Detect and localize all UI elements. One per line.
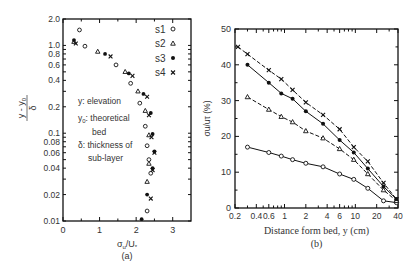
svg-text:y - y0: y - y0 [16, 97, 27, 118]
series-line [248, 97, 397, 201]
open-triangle-marker [143, 108, 147, 112]
x-tick-label: 1 [97, 225, 102, 235]
filled-circle-marker [127, 72, 131, 76]
x-tick-label: 6 [337, 211, 342, 221]
open-triangle-marker [351, 157, 356, 161]
open-triangle-marker [321, 136, 326, 140]
svg-text:y: elevation: y: elevation [78, 96, 121, 106]
filled-circle-marker [245, 63, 249, 67]
x-tick-label: 20 [372, 211, 382, 221]
x-tick-label: 0 [60, 225, 65, 235]
x-tick-label: 10 [351, 211, 361, 221]
svg-text:δ: δ [28, 105, 38, 110]
y-tick-label: 0.2 [48, 102, 60, 112]
series-line [248, 147, 397, 203]
cross-marker [382, 181, 386, 185]
open-triangle-marker [145, 179, 149, 183]
filled-circle-marker [338, 138, 342, 142]
open-circle-marker [352, 177, 356, 181]
svg-text:δ: thickness of: δ: thickness of [78, 140, 133, 150]
open-circle-marker [145, 144, 149, 148]
series-s1 [245, 145, 398, 204]
cross-marker [338, 127, 342, 131]
y-tick-label: 0.6 [48, 60, 60, 70]
y-tick-label: 0 [226, 203, 231, 213]
open-triangle-marker [136, 89, 140, 93]
legend-label: s2 [155, 38, 166, 49]
cross-marker [150, 135, 154, 139]
cross-marker [366, 159, 370, 163]
open-circle-marker [145, 209, 149, 213]
filled-circle-marker [171, 56, 175, 60]
figure: 01232.01.00.80.60.40.20.10.080.060.040.0… [0, 0, 417, 275]
svg-text:sub-layer: sub-layer [88, 153, 123, 163]
filled-circle-marker [145, 193, 149, 197]
open-circle-marker [291, 158, 295, 162]
svg-text:y0: theoretical: y0: theoretical [78, 113, 130, 124]
cross-marker [291, 88, 295, 92]
open-triangle-marker [279, 114, 284, 118]
x-axis-label: σu/U* [117, 239, 138, 250]
filled-circle-marker [366, 167, 370, 171]
filled-circle-marker [267, 81, 271, 85]
open-triangle-marker [290, 120, 295, 124]
open-triangle-marker [337, 146, 342, 150]
filled-circle-marker [279, 91, 283, 95]
y-tick-label: 40 [221, 60, 231, 70]
filled-circle-marker [140, 217, 144, 221]
filled-circle-marker [382, 185, 386, 189]
open-circle-marker [129, 81, 133, 85]
x-tick-label: 3 [170, 225, 175, 235]
open-triangle-marker [96, 49, 100, 53]
legend-label: s4 [155, 67, 166, 78]
legend-label: s1 [155, 24, 166, 35]
open-circle-marker [245, 145, 249, 149]
open-circle-marker [267, 151, 271, 155]
cross-marker [321, 113, 325, 117]
cross-marker [267, 68, 271, 72]
cross-marker [279, 77, 283, 81]
cross-marker [149, 197, 153, 201]
x-tick-label: 2 [134, 225, 139, 235]
panel-caption: (a) [122, 251, 133, 261]
series-line [248, 65, 397, 199]
y-tick-label: 0.08 [43, 137, 60, 147]
open-triangle-marker [245, 95, 250, 99]
filled-circle-marker [142, 92, 146, 96]
chart-panel-b: 0.20.40.6124610204001020304050σu/uτ (%)D… [202, 24, 403, 250]
chart-panel-a: 01232.01.00.80.60.40.20.10.080.060.040.0… [16, 14, 191, 261]
open-triangle-marker [304, 129, 309, 133]
y-axis-label: y - y0δ [16, 95, 38, 121]
cross-marker [245, 52, 249, 56]
y-axis-label: σu/uτ (%) [202, 100, 212, 136]
x-axis-label: Distance form bed, y (cm) [264, 225, 369, 237]
cross-marker [352, 145, 356, 149]
cross-marker [171, 71, 175, 75]
x-tick-label: 40 [393, 211, 403, 221]
open-triangle-marker [123, 69, 127, 73]
open-circle-marker [321, 165, 325, 169]
legend-label: s3 [155, 53, 166, 64]
cross-marker [304, 100, 308, 104]
series-s2 [245, 95, 399, 203]
y-tick-label: 0.02 [43, 190, 60, 200]
svg-text:bed: bed [92, 127, 106, 137]
y-tick-label: 0.01 [43, 216, 60, 226]
y-tick-label: 0.04 [43, 163, 60, 173]
open-circle-marker [279, 154, 283, 158]
open-circle-marker [78, 28, 82, 32]
y-tick-label: 50 [221, 24, 231, 34]
open-circle-marker [382, 199, 386, 203]
panel-caption: (b) [311, 238, 323, 250]
open-triangle-marker [171, 41, 176, 45]
x-tick-label: 0.4 [250, 211, 262, 221]
open-circle-marker [171, 27, 175, 31]
filled-circle-marker [103, 52, 107, 56]
y-tick-label: 0.4 [48, 75, 60, 85]
x-tick-label: 2 [303, 211, 308, 221]
filled-circle-marker [352, 151, 356, 155]
cross-marker [131, 74, 135, 78]
filled-circle-marker [72, 38, 76, 42]
cross-marker [147, 113, 151, 117]
x-tick-label: 4 [325, 211, 330, 221]
